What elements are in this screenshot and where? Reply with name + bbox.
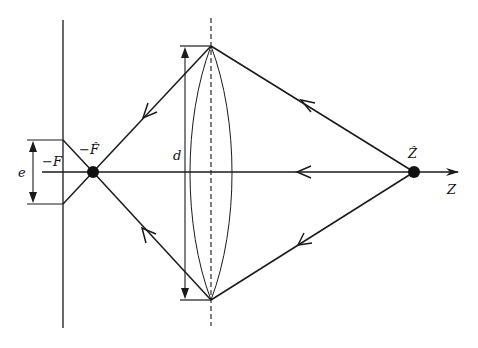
d-arrow-down-icon (181, 288, 189, 299)
ray-top-diverge (63, 172, 93, 204)
ray-top-source (211, 46, 414, 172)
d-arrow-up-icon (181, 47, 189, 58)
label-minus-F: −F (42, 154, 63, 169)
ray-arrow-bottom-left-icon (142, 228, 156, 243)
ray-bottom-source (211, 172, 414, 300)
label-e: e (18, 165, 26, 180)
ray-bottom-image (93, 172, 211, 300)
ray-diagram: −F −F̂ Ẑ Z d e (0, 0, 478, 348)
ray-top-image (93, 46, 211, 172)
label-Z-axis: Z (446, 182, 457, 197)
label-d: d (173, 148, 181, 163)
label-minus-F-hat: −F̂ (79, 142, 100, 157)
e-arrow-up-icon (29, 141, 37, 152)
label-Z-hat: Ẑ (407, 146, 418, 161)
e-arrow-down-icon (29, 192, 37, 203)
source-point-dot (408, 166, 420, 178)
focus-point-dot (87, 166, 99, 178)
